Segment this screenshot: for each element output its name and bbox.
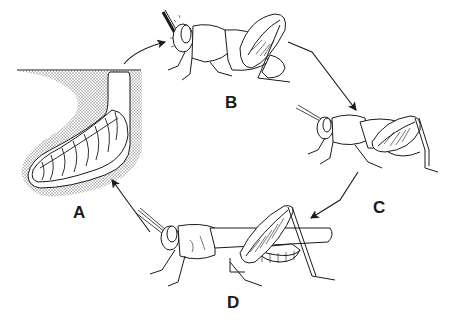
stage-label-d: D xyxy=(227,294,239,311)
adult-grasshopper-illustration xyxy=(136,206,335,286)
life-cycle-diagram: A B C D xyxy=(0,0,455,324)
stage-label-b: B xyxy=(225,94,237,111)
arrow-a-to-b xyxy=(124,42,165,64)
egg-pod-illustration xyxy=(17,70,142,196)
stage-label-a: A xyxy=(73,204,85,221)
nymph-c-illustration xyxy=(296,105,438,172)
arrow-d-to-a xyxy=(112,180,150,232)
arrow-c-to-d xyxy=(311,172,358,218)
arrow-b-to-c xyxy=(288,42,356,110)
nymph-b-illustration xyxy=(163,10,290,82)
diagram-canvas xyxy=(0,0,455,324)
stage-label-c: C xyxy=(373,199,385,216)
